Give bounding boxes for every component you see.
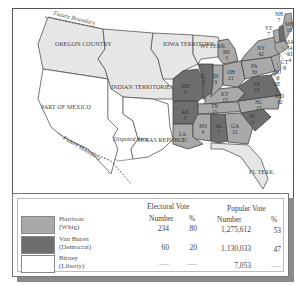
birney-label: Birney(Liberty) <box>59 255 84 270</box>
pv-number-col: Number <box>217 215 242 224</box>
harrison-pv-number: 1,275,612 <box>203 225 251 234</box>
label-oregon-country: OREGON COUNTRY <box>55 41 112 47</box>
harrison-ev-percent: 80 <box>181 224 197 233</box>
state-sc: SC11 <box>249 113 256 125</box>
state-nc: NC15 <box>255 99 263 111</box>
birney-pv-percent: ---- <box>261 262 281 271</box>
popular-vote-header: Popular Vote <box>227 204 266 213</box>
state-mi: MI3 <box>223 49 230 61</box>
van-buren-pv-percent: 47 <box>265 245 281 254</box>
state-oh: OH21 <box>227 69 235 81</box>
state-mo: MO4 <box>181 83 190 95</box>
birney-ev-number: ---- <box>147 260 169 269</box>
state-pa: PA30 <box>251 63 258 75</box>
state-nj: NJ8 <box>275 69 281 81</box>
birney-ev-percent: ---- <box>177 260 197 269</box>
van-buren-ev-percent: 20 <box>181 243 197 252</box>
harrison-swatch <box>21 216 55 234</box>
pv-percent-col: % <box>271 215 277 224</box>
state-me: ME10 <box>285 21 293 33</box>
state-va: VA23 <box>253 81 260 93</box>
electoral-vote-header: Electoral Vote <box>147 202 189 211</box>
state-de: DE3 <box>273 81 280 93</box>
harrison-label: Harrison(Whig) <box>59 216 84 231</box>
state-in: IN9 <box>213 73 219 85</box>
birney-swatch <box>21 255 55 273</box>
state-al: AL7 <box>215 123 222 135</box>
van-buren-label: Van Buren(Democrat) <box>59 236 91 251</box>
van-buren-swatch <box>21 236 55 254</box>
state-ar: AR3 <box>181 109 189 121</box>
van-buren-pv-number: 1,130,033 <box>203 244 251 253</box>
state-il: IL5 <box>201 73 206 85</box>
label-indian-territories: INDIAN TERRITORIES <box>111 84 174 90</box>
ev-number-col: Number <box>149 214 174 223</box>
label-fl-territory: FL TERR. <box>249 169 275 175</box>
legend-table: Electoral Vote Popular Vote Number % Num… <box>12 193 289 277</box>
van-buren-ev-number: 60 <box>147 243 169 252</box>
state-la: LA5 <box>179 131 186 143</box>
state-ms: MS4 <box>199 123 207 135</box>
birney-pv-number: 7,053 <box>203 261 251 270</box>
state-ma: MA14 <box>285 39 294 51</box>
ev-percent-col: % <box>189 214 195 223</box>
harrison-pv-percent: 53 <box>265 226 281 235</box>
state-ga: GA11 <box>231 123 239 135</box>
state-nh: NH7 <box>275 11 283 23</box>
harrison-ev-number: 234 <box>147 224 169 233</box>
state-md: MD10 <box>275 93 284 105</box>
label-part-of-mexico: PART OF MEXICO <box>41 104 91 110</box>
state-ct: CT8 <box>281 59 288 71</box>
state-tn: TN15 <box>211 103 218 115</box>
state-ny: NY42 <box>257 45 265 57</box>
state-vt: VT7 <box>265 25 272 37</box>
state-ky: KY15 <box>221 91 229 103</box>
